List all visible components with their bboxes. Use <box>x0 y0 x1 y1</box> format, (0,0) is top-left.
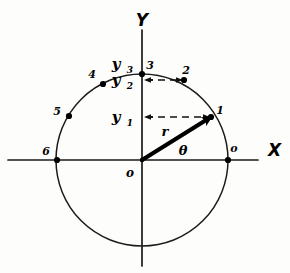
circle-point-label-6: 6 <box>42 145 50 158</box>
circle-point-dot-5 <box>66 113 72 119</box>
circle-point-dot-1 <box>208 114 214 120</box>
radius-label: r <box>162 124 170 139</box>
unit-circle-diagram: X Y o r θ 123456o y1y2y3 <box>0 0 290 273</box>
projection-subscript-3: 3 <box>127 65 133 75</box>
radius-vector-arrow <box>142 117 211 160</box>
projection-subscript-1: 1 <box>127 118 133 128</box>
projection-label-y3: y <box>111 55 122 73</box>
circle-point-dot-3 <box>139 71 145 77</box>
projection-label-y2: y <box>111 71 122 89</box>
circle-point-label-4: 4 <box>88 68 96 81</box>
projection-value-labels: y1y2y3 <box>111 55 133 128</box>
diagram-text-layer: X Y o r θ 123456o y1y2y3 <box>42 10 282 180</box>
circle-point-label-o: o <box>230 142 237 155</box>
circle-point-dot-6 <box>54 157 60 163</box>
circle-point-label-3: 3 <box>146 59 154 72</box>
theta-label: θ <box>179 143 188 158</box>
circle-point-label-5: 5 <box>53 105 61 118</box>
circle-point-label-1: 1 <box>216 104 224 117</box>
projection-subscript-2: 2 <box>126 81 133 91</box>
x-axis-label: X <box>267 140 282 160</box>
origin-label: o <box>126 166 134 180</box>
y-axis-label: Y <box>136 10 150 30</box>
circle-point-dot-o <box>225 157 231 163</box>
circle-point-dot-2 <box>181 77 187 83</box>
origin-dot <box>140 158 144 162</box>
circle-point-dot-4 <box>100 81 106 87</box>
projection-lines-group <box>145 80 209 117</box>
projection-label-y1: y <box>111 108 122 126</box>
figure-canvas: X Y o r θ 123456o y1y2y3 <box>0 0 290 273</box>
circle-point-label-2: 2 <box>181 64 190 77</box>
